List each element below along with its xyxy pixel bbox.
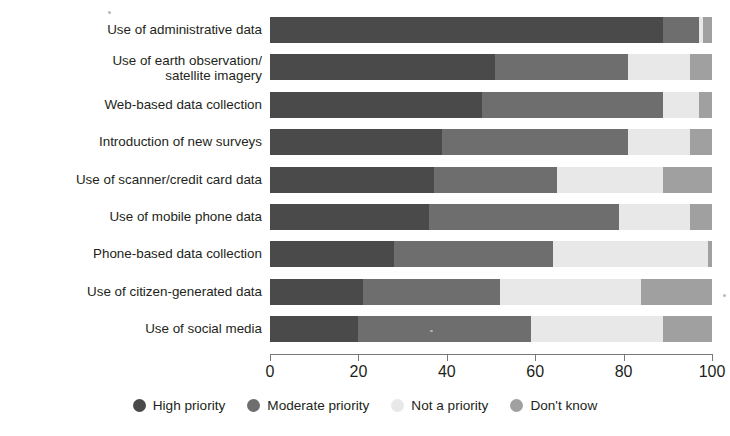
x-axis-tick (358, 354, 359, 361)
chart-row: Use of citizen-generated data (0, 278, 730, 315)
category-label: Use of scanner/credit card data (2, 172, 262, 187)
stacked-bar (270, 54, 712, 80)
category-label: Use of mobile phone data (2, 209, 262, 224)
scan-speck-2 (723, 294, 726, 297)
bar-segment (270, 241, 394, 267)
bar-segment (500, 279, 641, 305)
category-label: Introduction of new surveys (2, 134, 262, 149)
bar-segment (628, 54, 690, 80)
x-axis-tick (624, 354, 625, 361)
stacked-bar (270, 167, 712, 193)
x-axis-tick-label: 100 (699, 363, 726, 381)
bar-segment (270, 92, 482, 118)
bar-segment (553, 241, 708, 267)
bar-segment (270, 167, 434, 193)
scan-speck-1 (108, 11, 111, 14)
bar-segment (270, 279, 363, 305)
legend-label: Moderate priority (267, 398, 369, 413)
chart-row: Use of social media (0, 315, 730, 352)
bar-segment (495, 54, 628, 80)
stacked-bar (270, 204, 712, 230)
x-axis-tick-label: 0 (266, 363, 275, 381)
x-axis: 020406080100 (0, 354, 730, 394)
bar-segment (628, 129, 690, 155)
stacked-bar (270, 129, 712, 155)
stacked-bar (270, 92, 712, 118)
bar-segment (270, 17, 663, 43)
chart-row: Introduction of new surveys (0, 128, 730, 165)
category-label: Use of citizen-generated data (2, 284, 262, 299)
chart-row: Web-based data collection (0, 91, 730, 128)
scan-speck-3 (430, 330, 433, 332)
bar-segment (270, 54, 495, 80)
bar-segment (270, 204, 429, 230)
category-label: Use of earth observation/ satellite imag… (2, 53, 262, 83)
stacked-bar (270, 17, 712, 43)
bar-segment (270, 129, 442, 155)
legend-label: Not a priority (411, 398, 488, 413)
legend-swatch-circle-icon (510, 399, 523, 412)
bar-segment (482, 92, 663, 118)
bar-segment (358, 316, 530, 342)
bar-segment (663, 316, 712, 342)
x-axis-tick-label: 60 (526, 363, 544, 381)
legend-item[interactable]: High priority (133, 398, 226, 413)
bar-segment (690, 129, 712, 155)
bar-segment (663, 167, 712, 193)
bar-segment (699, 92, 712, 118)
stacked-bar (270, 241, 712, 267)
chart-row: Use of scanner/credit card data (0, 166, 730, 203)
chart-row: Phone-based data collection (0, 240, 730, 277)
bar-segment (703, 17, 712, 43)
legend-label: Don't know (530, 398, 597, 413)
chart-legend: High priorityModerate priorityNot a prio… (0, 398, 730, 413)
bar-segment (429, 204, 619, 230)
legend-swatch-circle-icon (133, 399, 146, 412)
bar-segment (531, 316, 664, 342)
bar-segment (663, 17, 698, 43)
x-axis-line (270, 354, 712, 355)
bar-segment (663, 92, 698, 118)
bar-segment (690, 54, 712, 80)
category-label: Web-based data collection (2, 97, 262, 112)
bar-segment (363, 279, 500, 305)
category-label: Use of administrative data (2, 22, 262, 37)
bar-segment (270, 316, 358, 342)
x-axis-tick-label: 40 (438, 363, 456, 381)
chart-row: Use of earth observation/ satellite imag… (0, 53, 730, 90)
stacked-bar (270, 279, 712, 305)
chart-row: Use of mobile phone data (0, 203, 730, 240)
x-axis-tick (712, 354, 713, 361)
plot-area: Use of administrative dataUse of earth o… (0, 16, 730, 354)
bar-segment (442, 129, 628, 155)
bar-segment (708, 241, 712, 267)
x-axis-tick (447, 354, 448, 361)
category-label: Phone-based data collection (2, 246, 262, 261)
bar-segment (434, 167, 558, 193)
legend-swatch-circle-icon (391, 399, 404, 412)
bar-segment (619, 204, 690, 230)
x-axis-tick-label: 20 (349, 363, 367, 381)
legend-item[interactable]: Moderate priority (247, 398, 369, 413)
legend-label: High priority (153, 398, 226, 413)
x-axis-tick (535, 354, 536, 361)
bar-segment (557, 167, 663, 193)
stacked-bar (270, 316, 712, 342)
bar-segment (394, 241, 553, 267)
stacked-bar-chart: Use of administrative dataUse of earth o… (0, 0, 730, 436)
bar-segment (690, 204, 712, 230)
chart-row: Use of administrative data (0, 16, 730, 53)
legend-swatch-circle-icon (247, 399, 260, 412)
legend-item[interactable]: Not a priority (391, 398, 488, 413)
category-label: Use of social media (2, 321, 262, 336)
legend-item[interactable]: Don't know (510, 398, 597, 413)
bar-segment (641, 279, 712, 305)
x-axis-tick (270, 354, 271, 361)
x-axis-tick-label: 80 (615, 363, 633, 381)
